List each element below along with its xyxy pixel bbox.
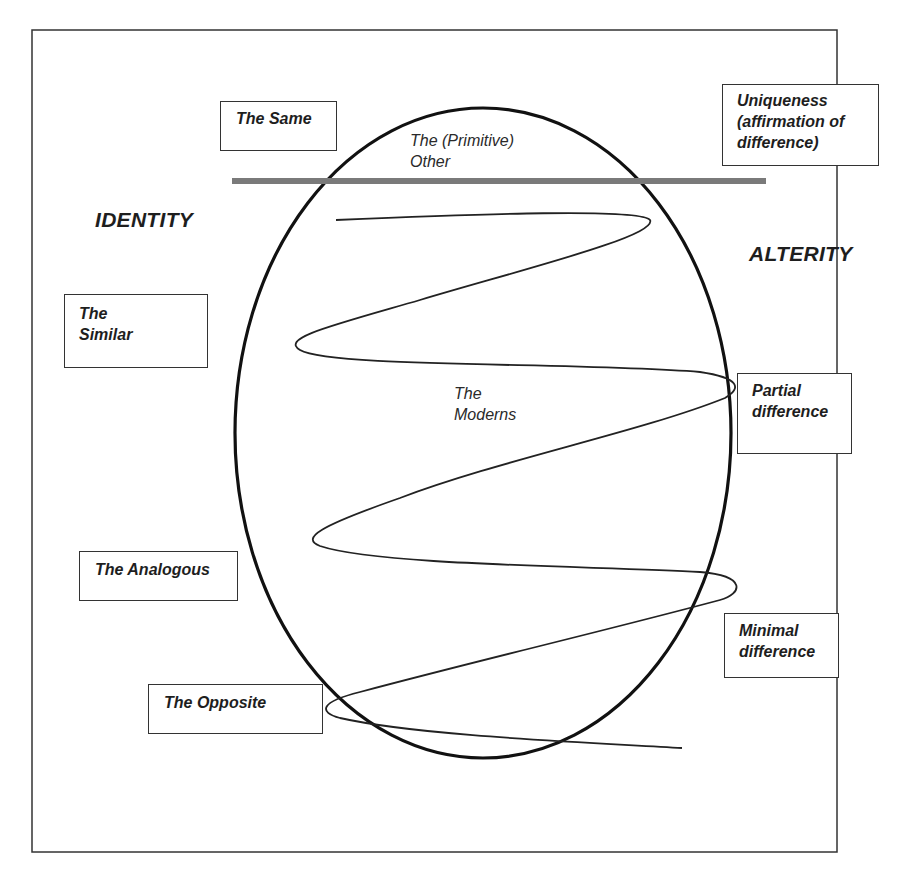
alterity-axis-label: ALTERITY bbox=[749, 242, 853, 266]
box-the-similar-line1: The bbox=[79, 303, 197, 324]
box-minimal-line1: Minimal bbox=[739, 620, 828, 641]
primitive-other-label: The (Primitive) Other bbox=[410, 130, 514, 172]
box-the-opposite-text: The Opposite bbox=[164, 692, 312, 713]
box-partial-difference: Partial difference bbox=[737, 373, 852, 454]
box-partial-line1: Partial bbox=[752, 380, 841, 401]
box-the-analogous-text: The Analogous bbox=[95, 559, 227, 580]
box-the-analogous: The Analogous bbox=[79, 551, 238, 601]
box-minimal-difference: Minimal difference bbox=[724, 613, 839, 678]
box-the-similar-line2: Similar bbox=[79, 324, 197, 345]
box-uniqueness-line1: Uniqueness bbox=[737, 90, 868, 111]
primitive-other-line2: Other bbox=[410, 151, 514, 172]
moderns-spiral bbox=[296, 213, 737, 748]
box-partial-line2: difference bbox=[752, 401, 841, 422]
box-the-similar: The Similar bbox=[64, 294, 208, 368]
moderns-label: The Moderns bbox=[454, 383, 516, 425]
box-uniqueness-line2: (affirmation of bbox=[737, 111, 868, 132]
box-uniqueness: Uniqueness (affirmation of difference) bbox=[722, 84, 879, 166]
box-the-opposite: The Opposite bbox=[148, 684, 323, 734]
box-the-same: The Same bbox=[220, 101, 337, 151]
moderns-line2: Moderns bbox=[454, 404, 516, 425]
box-uniqueness-line3: difference) bbox=[737, 132, 868, 153]
primitive-other-line1: The (Primitive) bbox=[410, 130, 514, 151]
box-minimal-line2: difference bbox=[739, 641, 828, 662]
box-the-same-text: The Same bbox=[236, 108, 326, 129]
moderns-line1: The bbox=[454, 383, 516, 404]
identity-axis-label: IDENTITY bbox=[95, 208, 193, 232]
